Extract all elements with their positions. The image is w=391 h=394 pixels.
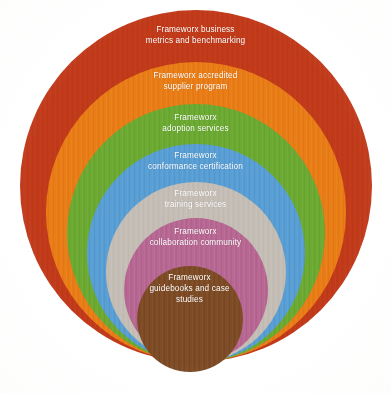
ring-label-conformance-certification: Frameworx conformance certification bbox=[0, 150, 391, 172]
ring-label-accredited-supplier: Frameworx accredited supplier program bbox=[0, 70, 391, 92]
ring-label-adoption-services: Frameworx adoption services bbox=[0, 112, 391, 134]
ring-label-collaboration-community: Frameworx collaboration community bbox=[0, 226, 391, 248]
concentric-circles-diagram: Frameworx business metrics and benchmark… bbox=[0, 0, 391, 394]
ring-label-business-metrics: Frameworx business metrics and benchmark… bbox=[0, 24, 391, 46]
ring-label-guidebooks-case-studies: Frameworx guidebooks and case studies bbox=[0, 272, 379, 306]
ring-label-training-services: Frameworx training services bbox=[0, 188, 391, 210]
